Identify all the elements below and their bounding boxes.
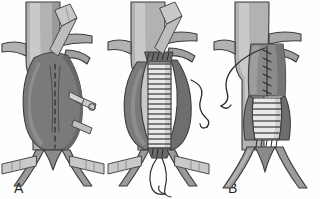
suture-thread-tails	[150, 158, 171, 197]
iliac-crotch	[255, 147, 275, 172]
iliac-right	[275, 147, 307, 188]
lumbar-branch-left	[2, 42, 26, 56]
iliac-left-highlight	[226, 150, 251, 186]
iliac-crotch	[44, 150, 62, 170]
proximal-anastomosis	[145, 52, 173, 62]
panel-a-label: A	[14, 181, 23, 195]
figure-aaa-repair: A	[0, 0, 320, 199]
panel-c: C	[213, 0, 320, 199]
panel-a-illustration	[0, 0, 107, 199]
corrugated-graft	[148, 60, 171, 148]
lumbar-branch-left	[214, 40, 235, 54]
graft-shading	[165, 60, 171, 148]
panel-c-illustration	[213, 0, 320, 199]
corrugated-graft-distal	[252, 98, 281, 140]
lumbar-branch-left	[108, 40, 131, 54]
suture-needle	[191, 80, 209, 128]
panel-a: A	[0, 0, 107, 199]
lumbar-branch-right-upper	[269, 32, 301, 44]
panel-b-illustration	[107, 0, 214, 199]
panel-b: B	[107, 0, 214, 199]
